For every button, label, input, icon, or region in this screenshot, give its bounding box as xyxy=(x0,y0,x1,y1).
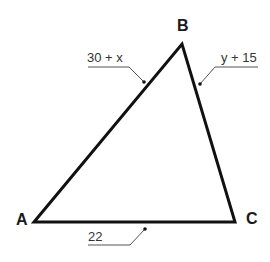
side-ac-label: 22 xyxy=(88,229,102,244)
side-bc-label: y + 15 xyxy=(221,50,257,65)
vertex-label-c: C xyxy=(246,210,258,227)
vertex-label-a: A xyxy=(16,211,28,228)
side-bc-callout: y + 15 xyxy=(198,50,258,86)
triangle-abc xyxy=(34,44,235,222)
side-ab-leader-line xyxy=(88,67,144,82)
side-ab-callout: 30 + x xyxy=(87,50,146,84)
side-bc-leader-line xyxy=(200,67,258,84)
side-ab-label: 30 + x xyxy=(87,50,123,65)
side-ac-leader-dot xyxy=(143,227,147,231)
side-bc-leader-dot xyxy=(198,82,202,86)
side-ac-callout: 22 xyxy=(88,227,147,245)
vertex-label-b: B xyxy=(177,17,189,34)
side-ab-leader-dot xyxy=(142,80,146,84)
triangle-diagram: B A C 30 + x y + 15 22 xyxy=(0,0,270,262)
